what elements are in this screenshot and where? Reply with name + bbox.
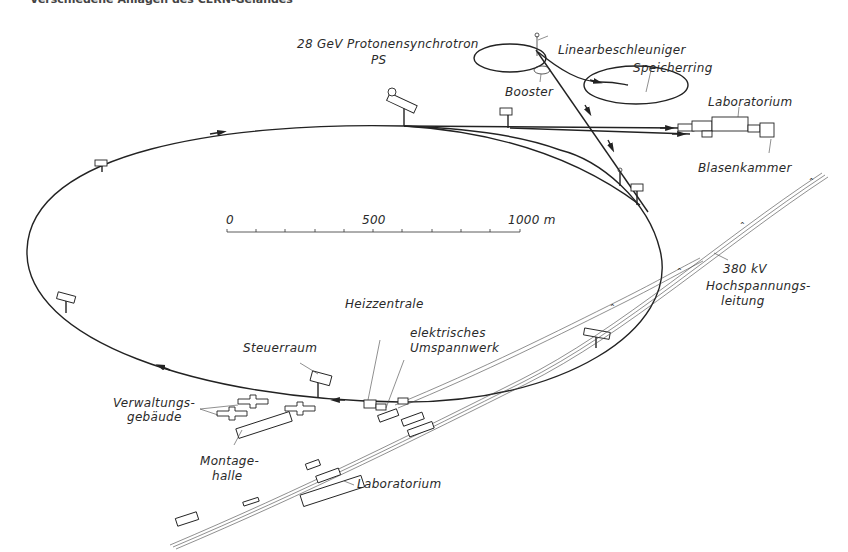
label-power-line-2: Hochspannungs- <box>706 279 811 293</box>
svg-text:⌃: ⌃ <box>676 267 683 276</box>
label-ps: 28 GeV Protonensynchrotron <box>297 37 479 51</box>
label-heating: Heizzentrale <box>345 297 424 311</box>
label-linac: Linearbeschleuniger <box>558 43 686 57</box>
lab-top-buildings <box>678 117 774 137</box>
main-ring <box>27 126 662 402</box>
label-substation-1: elektrisches <box>410 326 486 340</box>
labels: 28 GeV Protonensynchrotron PS Linearbesc… <box>113 37 811 491</box>
power-line: ⌃ ⌃ ⌃ ⌃ <box>170 173 828 549</box>
scale-mid: 500 <box>362 213 386 227</box>
label-admin-1: Verwaltungs- <box>113 396 195 410</box>
label-control-room: Steuerraum <box>243 341 317 355</box>
svg-text:⌃: ⌃ <box>609 303 616 312</box>
label-bubble-chamber: Blasenkammer <box>698 161 793 175</box>
svg-text:⌃: ⌃ <box>808 177 815 186</box>
scale-bar: 0 500 1000 m <box>226 213 556 232</box>
label-storage-ring: Speicherring <box>633 61 713 75</box>
label-substation-2: Umspannwerk <box>410 341 500 355</box>
label-power-line-3: leitung <box>721 294 765 308</box>
label-lab-bottom: Laboratorium <box>357 477 442 491</box>
label-assembly-2: halle <box>212 469 243 483</box>
label-assembly-1: Montage- <box>200 454 259 468</box>
label-admin-2: gebäude <box>127 410 182 424</box>
scale-start: 0 <box>226 213 234 227</box>
svg-text:⌃: ⌃ <box>739 221 746 230</box>
ring-buildings <box>57 88 643 397</box>
caption: Verschiedene Anlagen des CERN-Geländes <box>30 0 293 6</box>
cern-site-diagram: Verschiedene Anlagen des CERN-Geländes <box>0 0 848 552</box>
label-power-line-1: 380 kV <box>723 262 767 276</box>
label-ps-abbr: PS <box>371 53 387 67</box>
label-lab-top: Laboratorium <box>708 95 793 109</box>
scale-end: 1000 m <box>508 213 556 227</box>
label-booster: Booster <box>505 85 554 99</box>
